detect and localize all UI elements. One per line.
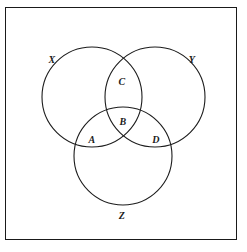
set-label-y: Y: [189, 55, 195, 65]
venn-diagram-page: X Y Z C B A D: [0, 0, 247, 252]
circle-set-x: [42, 47, 142, 147]
region-label-b: B: [120, 117, 127, 127]
region-label-d: D: [152, 135, 159, 145]
set-label-z: Z: [119, 211, 125, 221]
region-label-c: C: [119, 77, 126, 87]
set-label-x: X: [49, 55, 56, 65]
region-label-a: A: [89, 135, 96, 145]
